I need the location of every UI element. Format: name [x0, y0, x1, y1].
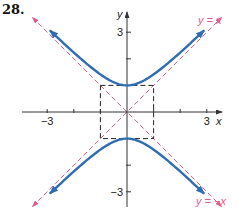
x-tick-label: 3	[204, 115, 210, 127]
asymptote-label-y-equals-neg-x: y = −x	[195, 195, 226, 207]
y-axis-label: y	[116, 8, 124, 20]
y-tick-label: 3	[117, 26, 123, 38]
x-axis-label: x	[215, 115, 222, 127]
y-tick-label: −3	[110, 186, 123, 198]
graph: −333−3xyy = xy = −x	[0, 0, 244, 212]
problem-number: 28.	[2, 2, 25, 17]
asymptote-label-y-equals-x: y = x	[197, 14, 222, 26]
x-tick-label: −3	[41, 115, 54, 127]
hyperbola-figure: 28. −333−3xyy = xy = −x	[0, 0, 244, 212]
